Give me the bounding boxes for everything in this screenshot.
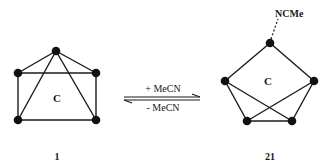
- structure-21: [225, 19, 314, 121]
- reverse-label: - MeCN: [146, 102, 179, 113]
- structure-1-atoms: [14, 47, 101, 125]
- structure-21-center-label: C: [264, 75, 272, 87]
- ligand-label: NCMe: [275, 8, 304, 19]
- compound-number-1: 1: [55, 151, 60, 162]
- forward-label: + MeCN: [145, 83, 180, 94]
- structure-1: [18, 51, 96, 120]
- reaction-scheme: C 1 + MeCN - MeCN C NCMe 21: [0, 0, 329, 167]
- structure-1-center-label: C: [53, 92, 61, 104]
- compound-number-21: 21: [265, 151, 275, 162]
